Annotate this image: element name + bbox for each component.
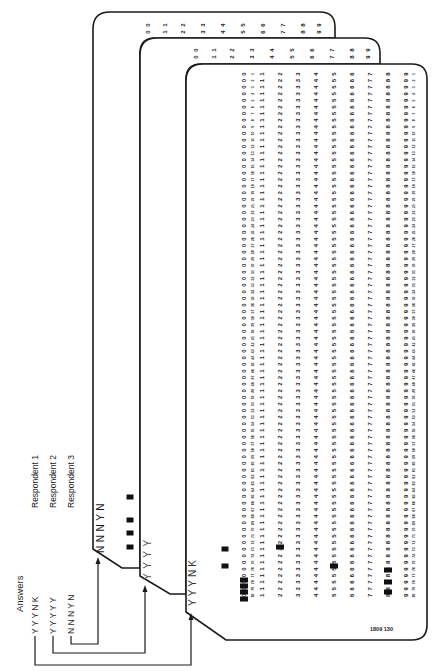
svg-text:44: 44 [412, 356, 416, 360]
svg-text:10: 10 [412, 131, 416, 135]
punched-hole [330, 564, 338, 569]
svg-text:45: 45 [251, 362, 255, 366]
svg-text:20: 20 [251, 197, 255, 201]
svg-text:38: 38 [251, 316, 255, 320]
svg-text:19: 19 [251, 191, 255, 195]
svg-text:42: 42 [251, 343, 255, 347]
svg-text:41: 41 [412, 336, 416, 340]
svg-text:41: 41 [251, 336, 255, 340]
svg-text:55: 55 [251, 428, 255, 432]
svg-text:35: 35 [251, 296, 255, 300]
svg-text:24: 24 [412, 224, 416, 228]
punched-hole [384, 590, 392, 595]
svg-text:28: 28 [412, 250, 416, 254]
svg-text:54: 54 [251, 422, 255, 426]
respondent-1-label: Respondent 1 [30, 455, 40, 508]
punched-hole [384, 580, 392, 585]
svg-text:4: 4 [251, 93, 255, 95]
svg-text:63: 63 [412, 481, 416, 485]
svg-text:23: 23 [412, 217, 416, 221]
svg-text:46: 46 [251, 369, 255, 373]
svg-text:71: 71 [251, 534, 255, 538]
svg-text:43: 43 [251, 349, 255, 353]
svg-text:38: 38 [412, 316, 416, 320]
svg-text:25: 25 [251, 230, 255, 234]
svg-text:14: 14 [251, 158, 255, 162]
svg-text:30: 30 [251, 263, 255, 267]
svg-text:27: 27 [251, 244, 255, 248]
punched-hole [240, 597, 248, 602]
svg-text:77: 77 [251, 574, 255, 578]
svg-text:67: 67 [251, 508, 255, 512]
svg-text:35: 35 [412, 296, 416, 300]
svg-text:27: 27 [412, 244, 416, 248]
svg-text:34: 34 [251, 290, 255, 294]
svg-text:68: 68 [251, 514, 255, 518]
svg-text:7: 7 [412, 113, 416, 115]
svg-text:31: 31 [412, 270, 416, 274]
svg-text:18: 18 [251, 184, 255, 188]
svg-text:63: 63 [251, 481, 255, 485]
svg-text:26: 26 [251, 237, 255, 241]
svg-text:69: 69 [412, 521, 416, 525]
svg-text:48: 48 [412, 382, 416, 386]
svg-text:57: 57 [412, 442, 416, 446]
svg-text:25: 25 [412, 230, 416, 234]
svg-text:77: 77 [412, 574, 416, 578]
svg-text:24: 24 [251, 224, 255, 228]
punch-card-diagram: 01234567890123456789 0123456789012345678… [0, 0, 440, 671]
svg-text:80: 80 [251, 593, 255, 597]
arrow-head-icon [143, 585, 148, 592]
svg-text:58: 58 [412, 448, 416, 452]
svg-text:1: 1 [412, 73, 416, 75]
svg-text:36: 36 [251, 303, 255, 307]
svg-text:40: 40 [251, 329, 255, 333]
svg-text:71: 71 [412, 534, 416, 538]
svg-text:23: 23 [251, 217, 255, 221]
svg-text:78: 78 [251, 580, 255, 584]
svg-text:11: 11 [251, 138, 255, 142]
svg-text:40: 40 [412, 329, 416, 333]
svg-text:53: 53 [251, 415, 255, 419]
svg-text:15: 15 [412, 164, 416, 168]
respondent-2-answers: Y Y Y Y Y [48, 597, 58, 634]
svg-text:67: 67 [412, 508, 416, 512]
svg-text:54: 54 [412, 422, 416, 426]
svg-text:32: 32 [251, 277, 255, 281]
svg-text:61: 61 [412, 468, 416, 472]
svg-text:30: 30 [412, 263, 416, 267]
svg-text:70: 70 [412, 527, 416, 531]
svg-text:12: 12 [412, 145, 416, 149]
svg-text:5: 5 [251, 99, 255, 101]
svg-text:3: 3 [412, 86, 416, 88]
punched-hole [127, 545, 134, 550]
svg-text:59: 59 [251, 455, 255, 459]
svg-text:52: 52 [412, 409, 416, 413]
svg-text:15: 15 [251, 164, 255, 168]
svg-text:10: 10 [251, 131, 255, 135]
svg-text:44: 44 [251, 356, 255, 360]
svg-text:19: 19 [412, 191, 416, 195]
svg-text:26: 26 [412, 237, 416, 241]
svg-text:55: 55 [412, 428, 416, 432]
svg-text:51: 51 [251, 402, 255, 406]
svg-text:61: 61 [251, 468, 255, 472]
svg-text:36: 36 [412, 303, 416, 307]
svg-text:76: 76 [251, 567, 255, 571]
front-card-printed-answers: YYYNK [187, 557, 198, 606]
svg-text:65: 65 [251, 494, 255, 498]
svg-text:65: 65 [412, 494, 416, 498]
svg-text:21: 21 [412, 204, 416, 208]
svg-text:68: 68 [412, 514, 416, 518]
svg-text:73: 73 [412, 547, 416, 551]
punched-hole [384, 568, 392, 573]
svg-text:14: 14 [412, 158, 416, 162]
diagram-canvas: 01234567890123456789 0123456789012345678… [0, 0, 440, 671]
arrow-head-icon [96, 557, 101, 564]
svg-text:9: 9 [412, 126, 416, 128]
svg-text:49: 49 [251, 389, 255, 393]
svg-text:49: 49 [412, 389, 416, 393]
svg-text:8: 8 [412, 119, 416, 121]
svg-text:50: 50 [412, 395, 416, 399]
svg-text:2: 2 [251, 80, 255, 82]
